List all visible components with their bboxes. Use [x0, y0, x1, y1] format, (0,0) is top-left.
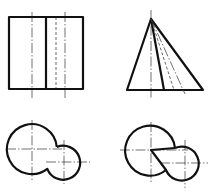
outline-triangle — [127, 19, 203, 90]
outline-circles — [125, 126, 199, 181]
front-view-cone — [127, 10, 203, 98]
outline-two-circles — [7, 124, 80, 180]
projection-drawing — [0, 0, 211, 196]
top-view-cone — [120, 122, 208, 188]
centerline — [151, 19, 185, 94]
front-view-cylinder — [9, 12, 83, 98]
top-view-cylinder — [6, 120, 90, 184]
notch-lines — [151, 148, 175, 170]
